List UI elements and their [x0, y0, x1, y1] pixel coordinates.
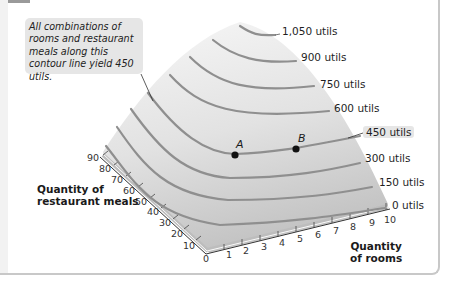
contour-label-900: 900 utils — [301, 51, 346, 63]
rooms-tick-6: 6 — [315, 229, 321, 240]
contour-label-450: 450 utils — [363, 126, 414, 138]
meals-axis-title: Quantity of restaurant meals — [37, 183, 139, 207]
point-a-label: A — [236, 138, 244, 151]
meals-tick-20: 20 — [171, 228, 183, 239]
meals-tick-80: 80 — [99, 163, 111, 174]
point-b-marker — [292, 145, 299, 152]
rooms-axis-title: Quantity of rooms — [350, 240, 402, 264]
meals-tick-90: 90 — [87, 152, 99, 163]
contour-label-600: 600 utils — [334, 102, 379, 114]
point-a-marker — [231, 151, 238, 158]
contour-label-750: 750 utils — [320, 78, 365, 90]
meals-tick-30: 30 — [159, 217, 171, 228]
contour-label-150: 150 utils — [379, 176, 424, 188]
rooms-tick-5: 5 — [297, 233, 303, 244]
rooms-tick-8: 8 — [350, 221, 356, 232]
rooms-tick-2: 2 — [243, 245, 249, 256]
point-b-label: B — [298, 132, 306, 145]
rooms-tick-7: 7 — [333, 225, 339, 236]
contour-label-1050: 1,050 utils — [282, 25, 337, 37]
callout-box: All combinations of rooms and restaurant… — [25, 18, 143, 74]
callout-text: All combinations of rooms and restaurant… — [29, 21, 134, 82]
meals-tick-10: 10 — [183, 240, 195, 251]
contour-label-300: 300 utils — [365, 152, 410, 164]
rooms-tick-10: 10 — [384, 214, 396, 225]
rooms-tick-9: 9 — [369, 217, 375, 228]
rooms-tick-3: 3 — [261, 241, 267, 252]
meals-tick-40: 40 — [147, 206, 159, 217]
rooms-tick-1: 1 — [226, 249, 232, 260]
contour-label-0: 0 utils — [392, 199, 424, 211]
origin-tick-0: 0 — [203, 253, 209, 264]
rooms-tick-4: 4 — [279, 237, 285, 248]
